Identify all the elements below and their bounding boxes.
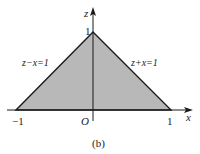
- left-line-label: z−x=1: [21, 57, 49, 68]
- right-line-label: z+x=1: [130, 57, 158, 68]
- z-tick-1: 1: [85, 25, 91, 37]
- diagram-canvas: z 1 z−x=1 z+x=1 −1 O 1 x (b): [0, 0, 200, 154]
- z-axis-label: z: [83, 7, 89, 19]
- x-axis-label: x: [185, 111, 191, 123]
- origin-label: O: [81, 115, 89, 127]
- figure-caption: (b): [92, 137, 105, 150]
- x-tick-neg-1: −1: [12, 115, 24, 127]
- x-tick-1: 1: [167, 115, 173, 127]
